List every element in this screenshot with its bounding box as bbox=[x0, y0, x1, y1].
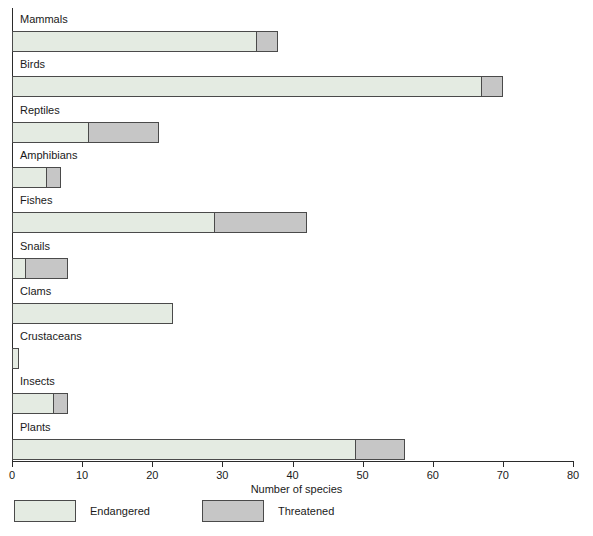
category-label: Insects bbox=[20, 375, 55, 388]
category-group: Reptiles bbox=[12, 99, 573, 144]
bar-segment-endangered bbox=[12, 31, 257, 52]
x-tick-label: 50 bbox=[357, 469, 369, 482]
bar-segment-threatened bbox=[481, 76, 503, 97]
chart-legend: Endangered Threatened bbox=[0, 500, 593, 530]
category-label: Mammals bbox=[20, 13, 68, 26]
x-tick-label: 70 bbox=[497, 469, 509, 482]
category-group: Crustaceans bbox=[12, 325, 573, 370]
bar-segment-threatened bbox=[256, 31, 278, 52]
legend-item-threatened: Threatened bbox=[202, 500, 334, 522]
category-label: Plants bbox=[20, 421, 51, 434]
stacked-bar bbox=[12, 303, 173, 324]
bar-segment-threatened bbox=[88, 122, 159, 143]
x-tick-label: 40 bbox=[286, 469, 298, 482]
legend-item-endangered: Endangered bbox=[14, 500, 150, 522]
x-tick bbox=[503, 461, 504, 467]
x-tick-label: 20 bbox=[146, 469, 158, 482]
bar-segment-endangered bbox=[12, 393, 54, 414]
bar-segment-endangered bbox=[12, 303, 173, 324]
x-tick bbox=[293, 461, 294, 467]
bar-segment-endangered bbox=[12, 167, 47, 188]
value-axis-line: 01020304050607080 bbox=[12, 461, 573, 462]
category-group: Clams bbox=[12, 280, 573, 325]
category-group: Plants bbox=[12, 416, 573, 461]
stacked-bar bbox=[12, 167, 61, 188]
bar-segment-endangered bbox=[12, 439, 356, 460]
stacked-bar bbox=[12, 212, 307, 233]
x-tick bbox=[12, 461, 13, 467]
bar-segment-threatened bbox=[25, 258, 68, 279]
category-group: Mammals bbox=[12, 8, 573, 53]
legend-swatch-endangered bbox=[14, 500, 76, 522]
x-tick-label: 10 bbox=[76, 469, 88, 482]
x-tick bbox=[152, 461, 153, 467]
category-label: Reptiles bbox=[20, 104, 60, 117]
stacked-bar bbox=[12, 393, 68, 414]
legend-label-threatened: Threatened bbox=[278, 505, 334, 517]
x-tick bbox=[82, 461, 83, 467]
bar-segment-threatened bbox=[214, 212, 306, 233]
legend-label-endangered: Endangered bbox=[90, 505, 150, 517]
category-label: Birds bbox=[20, 58, 45, 71]
bar-segment-endangered bbox=[12, 76, 482, 97]
category-group: Snails bbox=[12, 235, 573, 280]
stacked-bar bbox=[12, 76, 503, 97]
category-label: Crustaceans bbox=[20, 330, 82, 343]
category-group: Insects bbox=[12, 370, 573, 415]
x-tick bbox=[573, 461, 574, 467]
bar-segment-endangered bbox=[12, 258, 26, 279]
bar-segment-threatened bbox=[46, 167, 61, 188]
category-group: Birds bbox=[12, 53, 573, 98]
legend-swatch-threatened bbox=[202, 500, 264, 522]
x-tick-label: 30 bbox=[216, 469, 228, 482]
category-label: Snails bbox=[20, 240, 50, 253]
bar-segment-threatened bbox=[355, 439, 405, 460]
stacked-bar bbox=[12, 122, 159, 143]
category-label: Clams bbox=[20, 285, 51, 298]
category-label: Fishes bbox=[20, 194, 52, 207]
bar-segment-endangered bbox=[12, 212, 215, 233]
stacked-bar bbox=[12, 439, 405, 460]
bar-segment-threatened bbox=[53, 393, 68, 414]
species-status-bar-chart: MammalsBirdsReptilesAmphibiansFishesSnai… bbox=[0, 0, 593, 536]
bar-segment-endangered bbox=[12, 122, 89, 143]
x-axis-title: Number of species bbox=[0, 483, 593, 495]
x-tick-label: 80 bbox=[567, 469, 579, 482]
x-tick-label: 60 bbox=[427, 469, 439, 482]
x-tick bbox=[433, 461, 434, 467]
x-tick bbox=[222, 461, 223, 467]
category-group: Fishes bbox=[12, 189, 573, 234]
category-group: Amphibians bbox=[12, 144, 573, 189]
bar-segment-endangered bbox=[12, 348, 19, 369]
x-tick-label: 0 bbox=[9, 469, 15, 482]
category-label: Amphibians bbox=[20, 149, 77, 162]
stacked-bar bbox=[12, 258, 68, 279]
stacked-bar bbox=[12, 31, 278, 52]
plot-area: MammalsBirdsReptilesAmphibiansFishesSnai… bbox=[12, 8, 573, 461]
stacked-bar bbox=[12, 348, 19, 369]
x-tick bbox=[363, 461, 364, 467]
